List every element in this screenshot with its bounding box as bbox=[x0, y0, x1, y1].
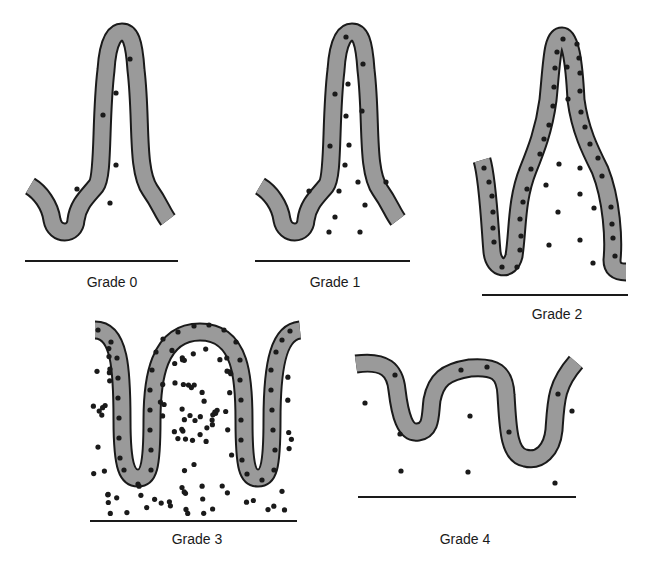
label-grade-0: Grade 0 bbox=[52, 274, 172, 290]
cell-dot bbox=[210, 422, 215, 427]
cell-dot bbox=[198, 414, 203, 419]
cell-dot bbox=[271, 504, 276, 509]
cell-dot bbox=[506, 429, 511, 434]
cell-dot bbox=[172, 380, 177, 385]
cell-dot bbox=[343, 34, 348, 39]
cell-dot bbox=[210, 506, 215, 511]
label-grade-2: Grade 2 bbox=[497, 306, 617, 322]
cell-dot bbox=[499, 264, 504, 269]
cell-dot bbox=[91, 471, 96, 476]
cell-dot bbox=[326, 229, 331, 234]
cell-dot bbox=[113, 90, 118, 95]
cell-dot bbox=[251, 498, 256, 503]
cell-dot bbox=[181, 382, 186, 387]
cell-dot bbox=[147, 407, 152, 412]
cell-dot bbox=[225, 427, 230, 432]
cell-dot bbox=[576, 55, 581, 60]
cell-dot bbox=[520, 199, 525, 204]
cell-dot bbox=[343, 113, 348, 118]
cell-dot bbox=[514, 264, 519, 269]
cell-dot bbox=[555, 391, 560, 396]
cell-dot bbox=[114, 355, 119, 360]
cell-dot bbox=[528, 166, 533, 171]
cell-dot bbox=[268, 367, 273, 372]
cell-dot bbox=[124, 510, 129, 515]
cell-dot bbox=[552, 480, 557, 485]
cell-dot bbox=[517, 247, 522, 252]
cell-dot bbox=[182, 468, 187, 473]
cell-dot bbox=[287, 328, 292, 333]
cell-dot bbox=[397, 431, 402, 436]
cell-dot bbox=[160, 382, 165, 387]
cell-dot bbox=[227, 390, 232, 395]
cell-dot bbox=[543, 182, 548, 187]
cell-dot bbox=[107, 367, 112, 372]
cell-dot bbox=[392, 372, 397, 377]
cell-dot bbox=[332, 214, 337, 219]
cell-dot bbox=[180, 407, 185, 412]
cell-dot bbox=[149, 367, 154, 372]
cell-dot bbox=[191, 351, 196, 356]
cell-dot bbox=[229, 452, 234, 457]
cell-dot bbox=[158, 400, 163, 405]
cell-dot bbox=[546, 122, 551, 127]
cell-dot bbox=[228, 371, 233, 376]
cell-dot bbox=[94, 369, 99, 374]
cell-dot bbox=[144, 505, 149, 510]
cell-dot bbox=[550, 103, 555, 108]
cell-dot bbox=[577, 88, 582, 93]
cell-dot bbox=[552, 65, 557, 70]
cell-dot bbox=[491, 239, 496, 244]
cell-dot bbox=[327, 143, 332, 148]
cell-dot bbox=[345, 81, 350, 86]
cell-dot bbox=[554, 49, 559, 54]
cell-dot bbox=[189, 385, 194, 390]
cell-dot bbox=[215, 408, 220, 413]
cell-dot bbox=[175, 436, 180, 441]
cell-dot bbox=[467, 413, 472, 418]
cell-dot bbox=[359, 108, 364, 113]
cell-dot bbox=[346, 142, 351, 147]
cell-dot bbox=[202, 399, 207, 404]
cell-dot bbox=[106, 500, 111, 505]
cell-dot bbox=[556, 161, 561, 166]
cell-dot bbox=[201, 511, 206, 516]
cell-dot bbox=[484, 364, 489, 369]
cell-dot bbox=[108, 511, 113, 516]
cell-dot bbox=[148, 467, 153, 472]
cell-dot bbox=[458, 367, 463, 372]
cell-dot bbox=[100, 112, 105, 117]
cell-dot bbox=[610, 235, 615, 240]
cell-dot bbox=[490, 225, 495, 230]
cell-dot bbox=[239, 457, 244, 462]
cell-dot bbox=[609, 221, 614, 226]
cell-dot bbox=[190, 438, 195, 443]
cell-dot bbox=[192, 418, 197, 423]
cell-dot bbox=[172, 361, 177, 366]
cell-dot bbox=[481, 165, 486, 170]
cell-dot bbox=[210, 417, 215, 422]
cell-dot bbox=[107, 200, 112, 205]
cell-dot bbox=[204, 439, 209, 444]
cell-dot bbox=[560, 36, 565, 41]
cell-dot bbox=[546, 242, 551, 247]
cell-dot bbox=[148, 447, 153, 452]
cell-dot bbox=[91, 404, 96, 409]
cell-dot bbox=[116, 435, 121, 440]
cell-dot bbox=[224, 355, 229, 360]
cell-dot bbox=[537, 151, 542, 156]
cell-dot bbox=[398, 468, 403, 473]
cell-dot bbox=[172, 429, 177, 434]
cell-dot bbox=[524, 186, 529, 191]
cell-dot bbox=[225, 490, 230, 495]
cell-dot bbox=[285, 375, 290, 380]
cell-dot bbox=[106, 346, 111, 351]
cell-dot bbox=[97, 409, 102, 414]
cell-dot bbox=[238, 437, 243, 442]
cell-dot bbox=[106, 354, 111, 359]
cell-dot bbox=[541, 136, 546, 141]
cell-dot bbox=[362, 202, 367, 207]
cell-dot bbox=[244, 471, 249, 476]
cell-dot bbox=[198, 432, 203, 437]
cell-dot bbox=[272, 447, 277, 452]
